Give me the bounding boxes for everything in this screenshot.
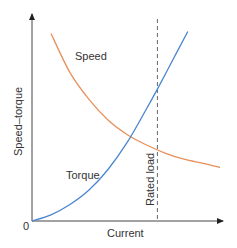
y-axis-label: Speed–torque [12,87,24,156]
speed-label: Speed [75,50,107,62]
origin-label: 0 [23,220,29,232]
rated-load-label: Rated load [144,153,156,206]
torque-curve [32,31,188,221]
x-axis-label: Current [107,227,144,239]
torque-label: Torque [66,169,100,181]
speed-torque-chart: Speed Torque Rated load Speed–torque Cur… [0,0,237,248]
